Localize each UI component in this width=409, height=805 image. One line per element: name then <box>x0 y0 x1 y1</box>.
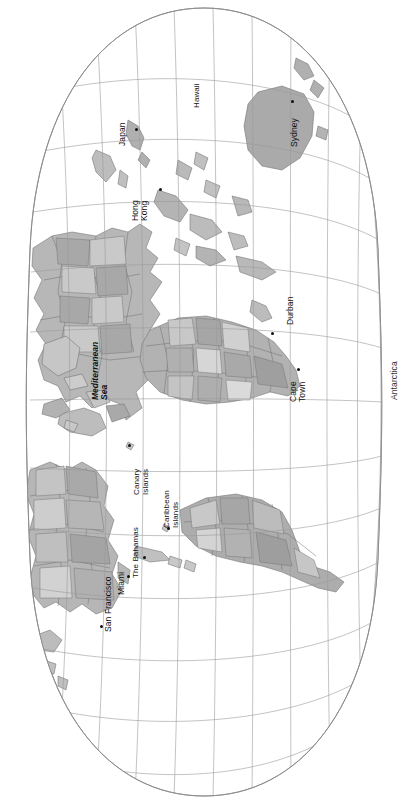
map-canvas <box>0 0 409 805</box>
world-map: HawaiiJapanSydneyHongKongDurbanCapeTownM… <box>0 0 409 805</box>
